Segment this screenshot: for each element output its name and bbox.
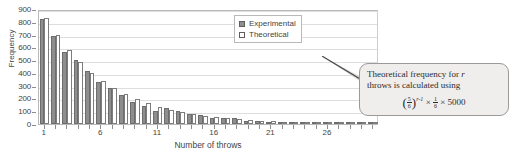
bar-theoretical	[305, 122, 310, 124]
formula-second-numerator: 1	[433, 96, 438, 102]
bar-theoretical	[271, 121, 276, 124]
formula-multiplier: 5000	[448, 97, 466, 107]
bar-theoretical	[56, 35, 61, 124]
chart-legend: Experimental Theoretical	[234, 15, 302, 43]
y-tick-mark	[32, 87, 36, 88]
callout-line1-a: Theoretical frequency for	[367, 69, 461, 79]
x-tick-label: 21	[266, 128, 275, 138]
y-tick-mark	[32, 125, 36, 126]
bar-theoretical	[282, 122, 287, 124]
bar-theoretical	[316, 122, 321, 124]
x-axis-title: Number of throws	[38, 140, 378, 150]
bar-theoretical	[203, 116, 208, 124]
callout-text: Theoretical frequency for r throws is ca…	[367, 69, 501, 91]
legend-label-theoretical: Theoretical	[249, 30, 289, 39]
bar-theoretical	[214, 117, 219, 124]
y-tick-mark	[32, 61, 36, 62]
callout-variable-r: r	[461, 69, 465, 79]
y-tick-mark	[32, 48, 36, 49]
bar-theoretical	[226, 118, 231, 124]
bar-theoretical	[248, 120, 253, 124]
bar-theoretical	[180, 112, 185, 124]
y-axis-title: Frequency	[7, 17, 16, 81]
y-tick-mark	[32, 112, 36, 113]
callout-box: Theoretical frequency for r throws is ca…	[359, 63, 509, 116]
x-tick-label: 1	[41, 128, 45, 138]
x-tick-label: 26	[323, 128, 332, 138]
legend-label-experimental: Experimental	[249, 19, 296, 28]
bar-chart-figure: 0100200300400500600700800900 Frequency 1…	[0, 0, 515, 156]
legend-item-experimental: Experimental	[239, 19, 296, 28]
y-tick-label: 800	[18, 19, 31, 27]
legend-swatch-theoretical-icon	[239, 32, 245, 38]
y-tick-label: 700	[18, 32, 31, 40]
bar-theoretical	[294, 122, 299, 124]
y-tick-label: 300	[18, 83, 31, 91]
bar-theoretical	[112, 88, 117, 124]
y-tick-label: 0	[27, 121, 31, 129]
bar-theoretical	[90, 73, 95, 124]
y-tick-mark	[32, 10, 36, 11]
legend-item-theoretical: Theoretical	[239, 30, 296, 39]
bar-theoretical	[78, 62, 83, 124]
bar-theoretical	[67, 50, 72, 124]
y-axis: 0100200300400500600700800900	[0, 10, 36, 125]
y-tick-mark	[32, 36, 36, 37]
bar-theoretical	[158, 107, 163, 124]
y-tick-label: 400	[18, 70, 31, 78]
callout-formula: (56)r-1 × 16 × 5000	[367, 94, 501, 109]
bar-theoretical	[339, 122, 344, 124]
legend-swatch-experimental-icon	[239, 21, 245, 27]
bar-theoretical	[124, 94, 129, 124]
callout-line2: throws is calculated using	[367, 80, 460, 90]
y-tick-mark	[32, 23, 36, 24]
y-tick-mark	[32, 99, 36, 100]
bar-theoretical	[101, 81, 106, 124]
bar-theoretical	[237, 119, 242, 124]
y-tick-label: 100	[18, 108, 31, 116]
y-tick-label: 500	[18, 57, 31, 65]
bar-theoretical	[373, 122, 378, 124]
formula-times-2: ×	[440, 97, 445, 107]
x-tick-label: 16	[209, 128, 218, 138]
x-axis-labels: 1611162126	[38, 128, 378, 140]
x-tick-label: 6	[98, 128, 102, 138]
y-tick-label: 200	[18, 95, 31, 103]
x-tick-label: 11	[153, 128, 161, 138]
bar-theoretical	[169, 110, 174, 124]
bar-theoretical	[135, 99, 140, 124]
formula-exponent: r-1	[416, 96, 423, 102]
y-tick-mark	[32, 74, 36, 75]
bar-theoretical	[362, 122, 367, 124]
bar-theoretical	[350, 122, 355, 124]
formula-times-1: ×	[426, 97, 431, 107]
bar-theoretical	[146, 103, 151, 124]
bar-theoretical	[44, 18, 49, 124]
formula-second-denominator: 6	[433, 102, 438, 109]
y-tick-label: 900	[18, 6, 31, 14]
formula-fraction-one-sixth: 16	[433, 96, 438, 109]
bar-theoretical	[260, 121, 265, 124]
y-tick-label: 600	[18, 44, 31, 52]
bar-theoretical	[192, 114, 197, 124]
bar-theoretical	[328, 122, 333, 124]
